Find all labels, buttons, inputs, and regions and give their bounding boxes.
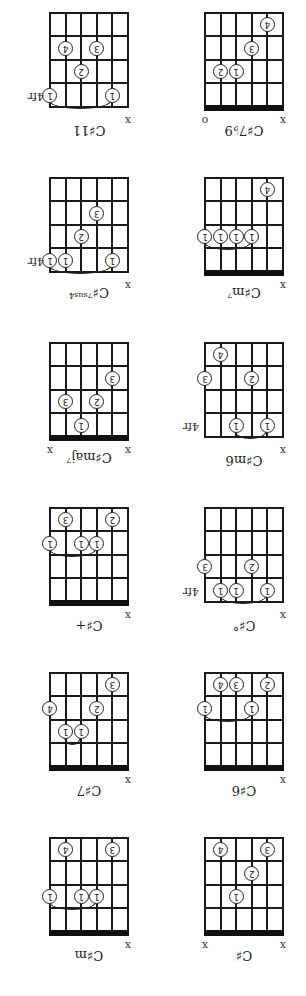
fretboard-grid: 41111 xyxy=(205,178,283,272)
fret-line xyxy=(204,884,284,886)
fret-line xyxy=(49,59,129,61)
fret-line xyxy=(204,908,284,910)
chord-name-superscript: 7sus4 xyxy=(69,291,93,300)
fretboard-grid: 3213 xyxy=(50,343,128,437)
finger-dot: 4 xyxy=(213,842,228,857)
fret-line xyxy=(204,224,284,226)
nut-bar xyxy=(204,765,284,771)
fret-line xyxy=(49,36,129,38)
fretboard-grid: 13211 xyxy=(50,178,128,272)
chord-name-base: C♯maj xyxy=(71,450,111,465)
finger-dot: 1 xyxy=(229,64,244,79)
nut-bar xyxy=(204,105,284,111)
open-string-icon: o xyxy=(200,115,210,125)
muted-string-icon: x xyxy=(123,115,133,125)
fret-line xyxy=(204,83,284,85)
finger-dot: 1 xyxy=(213,583,228,598)
fret-line xyxy=(49,177,129,179)
finger-dot: 2 xyxy=(260,677,275,692)
fret-line xyxy=(204,36,284,38)
finger-dot: 1 xyxy=(260,583,275,598)
chord-chart-page: C♯3214xxC♯m31141xC♯621341xC♯732114xC♯°12… xyxy=(0,0,306,996)
chord-name-base: C♯° xyxy=(233,618,256,633)
fret-line xyxy=(49,837,129,839)
finger-dot: 2 xyxy=(213,64,228,79)
chord-name-base: C♯m xyxy=(232,285,261,300)
fret-line xyxy=(49,743,129,745)
chord-name-base: C♯+ xyxy=(75,618,102,633)
fret-line xyxy=(204,366,284,368)
finger-dot: 1 xyxy=(74,418,89,433)
finger-dot: 2 xyxy=(74,229,89,244)
fret-position-label: 4fr xyxy=(28,90,44,103)
nut-bar xyxy=(49,435,129,441)
fret-line xyxy=(49,248,129,250)
fretboard-grid: 13241 xyxy=(50,13,128,107)
fret-line xyxy=(204,743,284,745)
muted-string-icon: x xyxy=(278,775,288,785)
fret-position-label: 4fr xyxy=(183,585,199,598)
finger-dot: 4 xyxy=(260,182,275,197)
fret-line xyxy=(49,578,129,580)
fret-line xyxy=(49,719,129,721)
chord-name-superscript: 7 xyxy=(227,291,232,300)
fretboard-grid: 21131 xyxy=(50,508,128,602)
finger-dot: 3 xyxy=(105,371,120,386)
finger-dot: 1 xyxy=(244,701,259,716)
finger-dot: 3 xyxy=(89,206,104,221)
fret-line xyxy=(204,12,284,14)
fretboard-grid: 21341 xyxy=(205,673,283,767)
finger-dot: 3 xyxy=(260,842,275,857)
finger-dot: 1 xyxy=(74,724,89,739)
fret-line xyxy=(204,389,284,391)
fret-line xyxy=(204,507,284,509)
fret-line xyxy=(204,531,284,533)
muted-string-icon: x xyxy=(123,940,133,950)
finger-dot: 1 xyxy=(260,418,275,433)
fret-line xyxy=(49,342,129,344)
finger-dot: 2 xyxy=(74,64,89,79)
fret-line xyxy=(204,342,284,344)
finger-dot: 3 xyxy=(58,394,73,409)
muted-string-icon: x xyxy=(278,445,288,455)
finger-dot: 1 xyxy=(229,583,244,598)
finger-dot: 2 xyxy=(89,701,104,716)
nut-bar xyxy=(49,600,129,606)
fretboard-grid: 12143 xyxy=(205,343,283,437)
finger-dot: 4 xyxy=(260,17,275,32)
fret-line xyxy=(204,59,284,61)
finger-dot: 3 xyxy=(244,41,259,56)
nut-bar xyxy=(49,930,129,936)
fret-line xyxy=(204,861,284,863)
fret-line xyxy=(204,837,284,839)
fret-line xyxy=(204,554,284,556)
muted-string-icon: x xyxy=(123,610,133,620)
fret-line xyxy=(49,389,129,391)
finger-dot: 1 xyxy=(74,536,89,551)
chord-name-base: C♯7♭9 xyxy=(225,123,264,138)
muted-string-icon: x xyxy=(278,115,288,125)
finger-dot: 1 xyxy=(105,88,120,103)
finger-dot: 2 xyxy=(244,371,259,386)
fretboard-grid: 31141 xyxy=(50,838,128,932)
fret-line xyxy=(49,696,129,698)
fret-line xyxy=(49,366,129,368)
finger-dot: 1 xyxy=(244,229,259,244)
finger-dot: 4 xyxy=(58,842,73,857)
muted-string-icon: x xyxy=(45,445,55,455)
finger-dot: 3 xyxy=(58,512,73,527)
fret-line xyxy=(49,531,129,533)
finger-dot: 1 xyxy=(74,889,89,904)
fret-position-label: 4fr xyxy=(28,255,44,268)
finger-dot: 3 xyxy=(89,41,104,56)
chord-name-base: C♯m6 xyxy=(226,453,263,468)
finger-dot: 1 xyxy=(229,229,244,244)
fretboard-grid: 3214 xyxy=(205,838,283,932)
fret-line xyxy=(49,201,129,203)
finger-dot: 4 xyxy=(213,677,228,692)
nut-bar xyxy=(204,270,284,276)
finger-dot: 3 xyxy=(105,842,120,857)
fret-line xyxy=(49,672,129,674)
muted-string-icon: x xyxy=(123,280,133,290)
muted-string-icon: x xyxy=(278,940,288,950)
